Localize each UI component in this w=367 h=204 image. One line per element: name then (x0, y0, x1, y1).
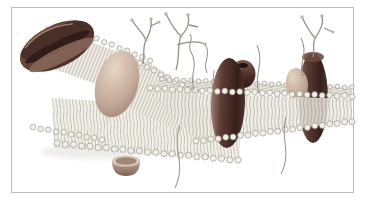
lipid-head (92, 135, 98, 141)
lipid-head (62, 141, 68, 147)
lipid-head (169, 151, 175, 157)
lipid-head (267, 90, 273, 96)
lipid-head (136, 148, 142, 154)
lipid-head (349, 94, 355, 100)
lipid-head (342, 93, 348, 99)
lipid-head (335, 84, 340, 89)
lipid-head (312, 92, 318, 98)
lipid-head (194, 154, 200, 160)
lipid-head (99, 137, 105, 143)
lipid-head (202, 154, 208, 160)
lipid-head (155, 86, 161, 92)
lipid-head (144, 149, 150, 155)
lipid-head (53, 129, 59, 135)
lipid-head (312, 123, 318, 129)
lipid-head (297, 125, 303, 131)
lipid-head (297, 91, 303, 97)
lipid-head (161, 151, 167, 157)
lipid-head (162, 86, 168, 92)
lipid-head (117, 46, 122, 51)
lipid-head (94, 36, 99, 41)
lipid-head (128, 148, 134, 154)
lipid-head (252, 89, 258, 95)
lipid-head (84, 134, 90, 140)
lipid-head (109, 42, 114, 47)
lipid-head (214, 89, 220, 95)
lipid-head (230, 134, 236, 140)
lipid-head (54, 140, 60, 146)
lipid-head (277, 82, 282, 87)
lipid-head (304, 124, 310, 130)
lipid-head (208, 136, 214, 142)
glycan-bead (313, 36, 316, 39)
lipid-head (334, 93, 340, 99)
lipid-head (102, 40, 107, 45)
lipid-head (350, 85, 355, 90)
lipid-head (70, 141, 76, 147)
lipid-head (69, 132, 75, 138)
lipid-head (200, 88, 206, 94)
lipid-head (238, 132, 244, 138)
lipid-head (349, 119, 355, 125)
lipid-head (260, 130, 266, 136)
lipid-head (244, 90, 250, 96)
glycan-bead (179, 34, 182, 37)
lipid-head (185, 87, 191, 93)
lipid-head (269, 82, 274, 87)
lipid-head (282, 90, 288, 96)
lipid-head (342, 85, 347, 90)
membrane-illustration (0, 0, 367, 204)
lipid-head (177, 86, 183, 92)
lipid-head (137, 60, 142, 65)
lipid-head (103, 145, 109, 151)
lipid-head (319, 93, 325, 99)
lipid-head (186, 152, 192, 158)
lipid-head (237, 89, 243, 95)
lipid-head (167, 78, 172, 83)
lipid-head (229, 89, 235, 95)
lipid-head (76, 132, 82, 138)
lipid-head (196, 79, 201, 84)
lipid-head (218, 155, 224, 161)
lipid-head (153, 149, 159, 155)
lipid-head (144, 65, 149, 70)
lipid-head (30, 124, 36, 130)
lipid-head (87, 143, 93, 149)
lipid-head (319, 123, 325, 129)
lipid-head (274, 91, 280, 97)
lipid-head (290, 126, 296, 132)
lipid-head (61, 130, 67, 136)
lipid-head (245, 132, 251, 138)
lipid-head (200, 138, 206, 144)
lipid-head (334, 121, 340, 127)
lipid-head (158, 72, 163, 77)
lipid-head (304, 92, 310, 98)
lipid-head (282, 127, 288, 133)
lipid-head (193, 138, 199, 144)
lipid-head (192, 87, 198, 93)
lipid-head (79, 143, 85, 149)
lipid-head (223, 134, 229, 140)
glycan-bead (164, 12, 167, 15)
lipid-head (262, 81, 267, 86)
lipid-head (289, 91, 295, 97)
lipid-head (259, 90, 265, 96)
glycan-bead (130, 18, 133, 21)
lipid-head (267, 129, 273, 135)
lipid-head (151, 68, 156, 73)
cup-hollow (116, 157, 137, 165)
lipid-head (112, 146, 118, 152)
glycan-bead (158, 21, 161, 24)
glycan-bead (320, 14, 323, 17)
lipid-head (204, 79, 209, 84)
lipid-head (46, 127, 52, 133)
lipid-head (38, 126, 44, 132)
lipid-head (147, 85, 153, 91)
lipid-head (215, 136, 221, 142)
lipid-head (328, 85, 333, 90)
lipid-head (252, 130, 258, 136)
lipid-head (170, 87, 176, 93)
lipid-head (227, 157, 233, 163)
lipid-head (120, 146, 126, 152)
lipid-head (174, 77, 179, 82)
